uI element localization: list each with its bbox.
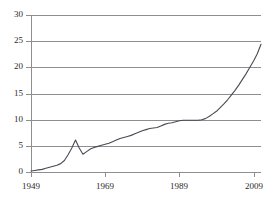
y-tick-label: 5 [1, 141, 23, 150]
x-tick [254, 172, 255, 177]
x-tick-label: 1969 [85, 182, 125, 191]
y-tick-label: 15 [1, 89, 23, 98]
x-tick-label: 1949 [11, 182, 51, 191]
x-tick [105, 172, 106, 177]
y-tick-label: 10 [1, 115, 23, 124]
gridline [31, 146, 261, 147]
gridline [31, 15, 261, 16]
y-tick-label: 30 [1, 10, 23, 19]
gridline [31, 67, 261, 68]
y-tick [26, 94, 31, 95]
x-tick [179, 172, 180, 177]
gridline [31, 120, 261, 121]
x-tick [31, 172, 32, 177]
y-tick [26, 120, 31, 121]
y-tick-label: 20 [1, 62, 23, 71]
y-tick-label: 0 [1, 167, 23, 176]
y-tick-label: 25 [1, 36, 23, 45]
line-chart: 051015202530 1949196919892009 [0, 0, 278, 206]
gridline [31, 41, 261, 42]
gridline [31, 94, 261, 95]
series-layer [0, 0, 278, 206]
y-tick [26, 41, 31, 42]
x-tick-label: 2009 [234, 182, 274, 191]
data-line-series-1 [31, 44, 261, 171]
y-tick [26, 15, 31, 16]
x-tick-label: 1989 [159, 182, 199, 191]
y-tick [26, 146, 31, 147]
x-axis-line [31, 172, 261, 173]
y-tick [26, 67, 31, 68]
